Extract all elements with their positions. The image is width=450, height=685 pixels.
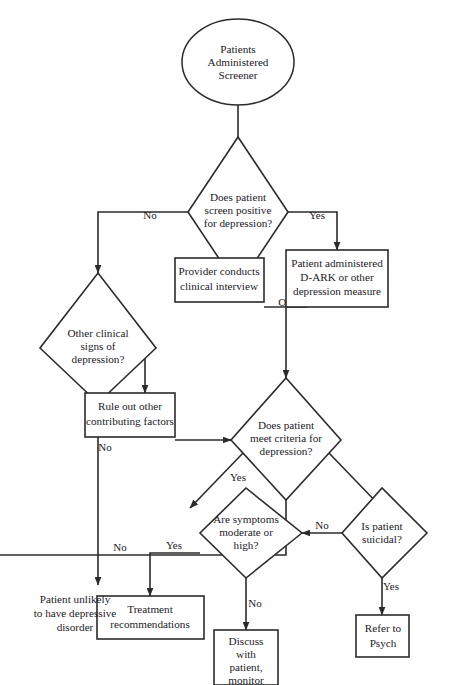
node-start-line-2: Administered [208,56,269,68]
node-other-signs-line-2: signs of [80,340,115,352]
node-treatment-line-1: Treatment [127,603,173,615]
node-clinical-interview[interactable]: Provider conducts clinical interview [175,258,264,302]
edge-label-criteria-yes: Yes [230,471,246,483]
node-suicidal-line-2: suicidal? [362,533,402,545]
node-rule-out-line-1: Rule out other [98,400,162,412]
edge-label-other-signs-no: No [98,441,112,453]
node-other-signs[interactable]: Other clinical signs of depression? [40,273,156,403]
edge-label-criteria-no: No [113,541,127,553]
node-meets-criteria-line-3: depression? [260,445,313,457]
edge-label-suicidal-yes: Yes [383,580,399,592]
node-start-line-3: Screener [218,69,257,81]
node-dark-measure[interactable]: Patient administered D-ARK or other depr… [286,250,388,307]
node-suicidal-line-1: Is patient [361,520,403,532]
node-discuss-monitor-line-4: monitor [228,674,264,685]
node-dark-measure-line-1: Patient administered [291,257,383,269]
node-refer-psych[interactable]: Refer to Psych [356,615,409,657]
node-screen-positive-line-1: Does patient [210,191,267,203]
node-unlikely-line-1: Patient unlikely [40,593,111,605]
flowchart-canvas: Yes No OR Yes No No Yes [0,0,450,685]
node-screen-positive-line-3: for depression? [204,217,273,229]
flowchart-diagram: Yes No OR Yes No No Yes [0,0,450,685]
node-refer-psych-line-2: Psych [370,637,397,649]
node-symptoms-severity-line-2: moderate or [219,526,273,538]
edge-label-suicidal-no: No [315,519,329,531]
node-clinical-interview-line-2: clinical interview [180,280,259,292]
node-meets-criteria-line-1: Does patient [258,419,315,431]
node-meets-criteria[interactable]: Does patient meet criteria for depressio… [231,378,341,500]
node-suicidal[interactable]: Is patient suicidal? [342,488,427,578]
node-rule-out[interactable]: Rule out other contributing factors [85,393,175,437]
edge-severity-yes [150,553,200,596]
node-other-signs-line-1: Other clinical [67,327,128,339]
node-symptoms-severity-line-3: high? [234,539,259,551]
node-discuss-monitor-line-1: Discuss [229,635,264,647]
node-refer-psych-line-1: Refer to [365,622,402,634]
node-symptoms-severity-line-1: Are symptoms [213,513,279,525]
node-dark-measure-line-2: D-ARK or other [300,271,374,283]
node-clinical-interview-line-1: Provider conducts [178,265,259,277]
node-unlikely-line-2: to have depressive [34,607,117,619]
node-treatment-line-2: recommendations [110,618,190,630]
node-discuss-monitor-line-3: patient, [229,661,262,673]
node-other-signs-line-3: depression? [72,353,125,365]
node-start-line-1: Patients [220,43,255,55]
edge-label-screen-yes: Yes [309,209,325,221]
edge-label-screen-no: No [143,209,157,221]
node-screen-positive-line-2: screen positive [205,204,272,216]
node-dark-measure-line-3: depression measure [293,285,381,297]
node-unlikely-line-3: disorder [57,621,94,633]
node-discuss-monitor-line-2: with [236,648,256,660]
node-start[interactable]: Patients Administered Screener [182,19,294,105]
node-discuss-monitor[interactable]: Discuss with patient, monitor [214,630,278,685]
node-rule-out-line-2: contributing factors [86,415,174,427]
edge-label-severity-yes: Yes [166,539,182,551]
edge-label-severity-no: No [248,597,262,609]
node-meets-criteria-line-2: meet criteria for [250,432,322,444]
